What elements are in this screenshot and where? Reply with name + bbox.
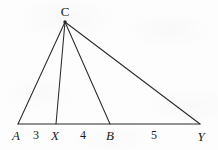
vertex-label-C: C bbox=[61, 5, 70, 18]
vertex-label-B: B bbox=[106, 129, 114, 142]
vertex-label-Y: Y bbox=[197, 130, 204, 143]
length-label-BY: 5 bbox=[151, 129, 157, 141]
segment-cevian-C-X bbox=[56, 22, 65, 124]
vertex-label-X: X bbox=[51, 129, 59, 142]
segment-cevian-C-A bbox=[18, 22, 65, 124]
geometry-figure: C A 3 X 4 B 5 Y bbox=[0, 0, 218, 150]
length-label-XB: 4 bbox=[80, 129, 86, 141]
vertex-dot-C bbox=[63, 20, 66, 23]
vertex-label-A: A bbox=[12, 129, 20, 142]
segment-cevian-C-B bbox=[65, 22, 110, 124]
segment-cevian-C-Y bbox=[65, 22, 200, 124]
length-label-AX: 3 bbox=[33, 129, 39, 141]
